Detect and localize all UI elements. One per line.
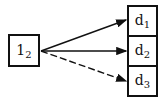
arrow-to-d3-dashed — [41, 51, 126, 81]
target-node-d3: d3 — [127, 65, 158, 97]
arrow-to-d1 — [41, 20, 126, 51]
target-node-d2-label: d2 — [135, 42, 150, 60]
target-node-d3-label: d3 — [135, 72, 150, 90]
target-node-d2: d2 — [127, 35, 158, 67]
source-node: 12 — [8, 34, 40, 67]
target-node-d1-label: d1 — [135, 12, 150, 30]
source-node-label: 12 — [16, 42, 31, 60]
target-node-d1: d1 — [127, 5, 158, 37]
